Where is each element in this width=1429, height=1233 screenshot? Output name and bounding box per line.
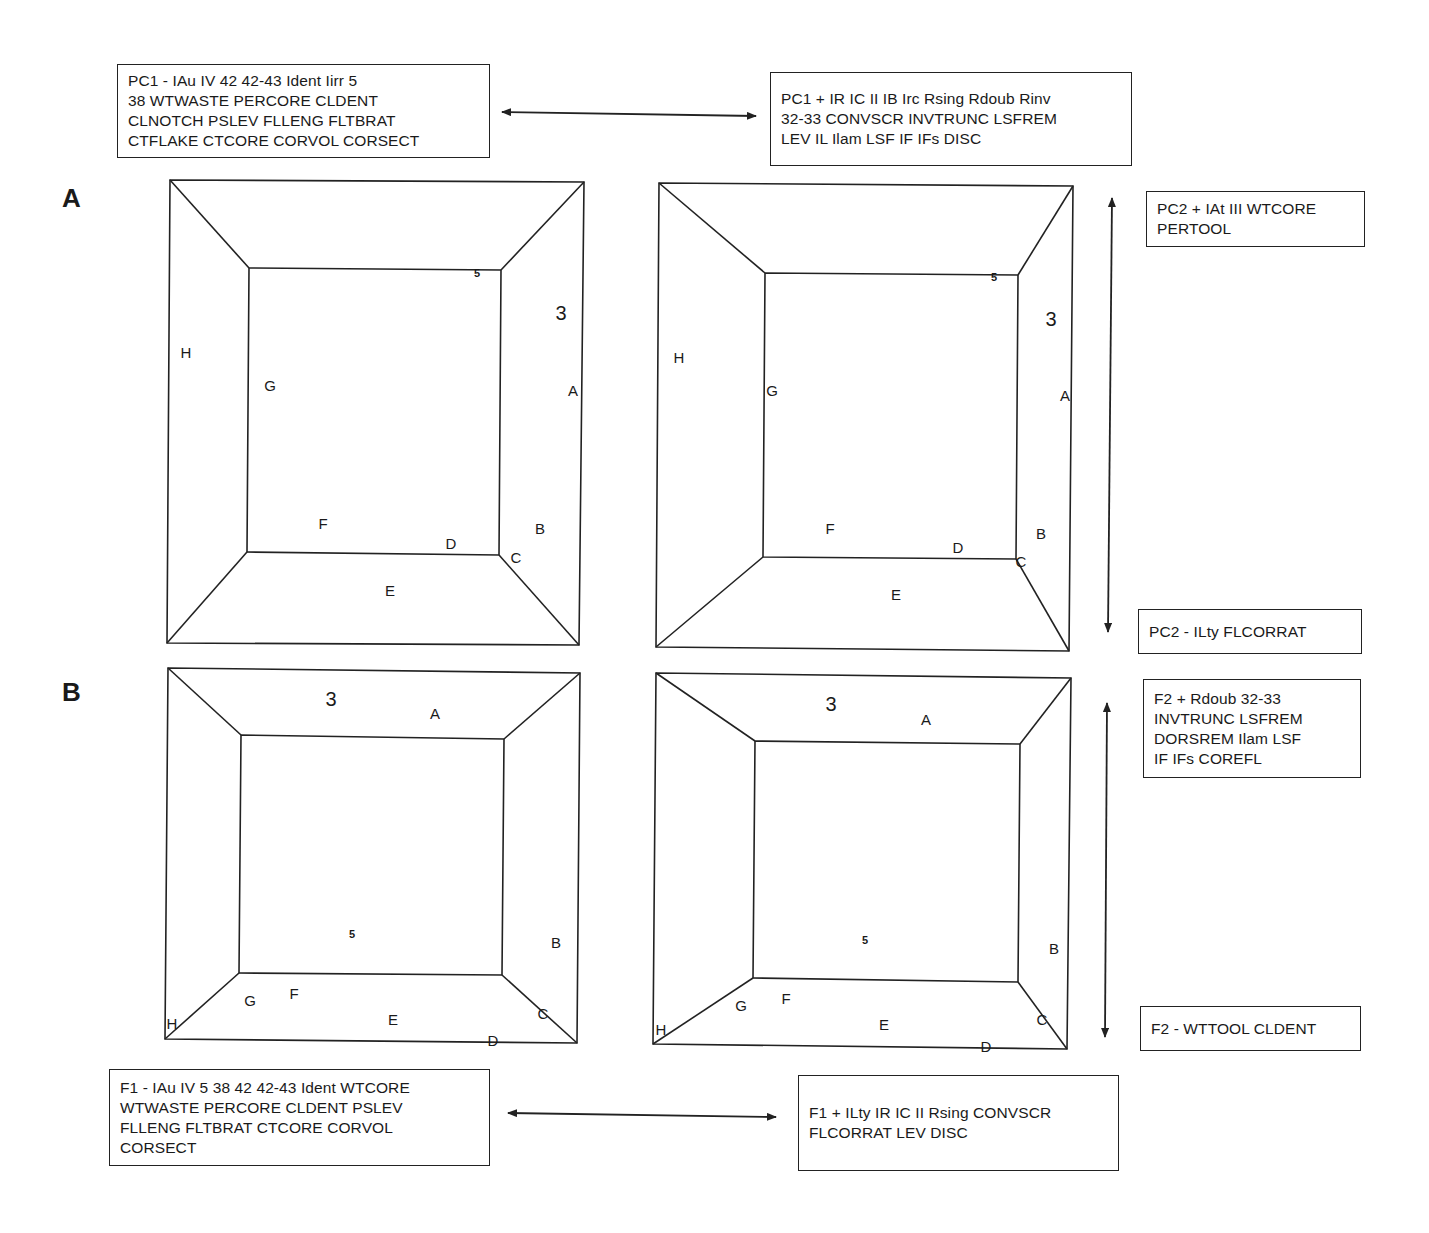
text-box-line: CORSECT <box>120 1138 479 1158</box>
text-box-line: FLLENG FLTBRAT CTCORE CORVOL <box>120 1118 479 1138</box>
text-box-line: FLCORRAT LEV DISC <box>809 1123 1108 1143</box>
frame-b-left <box>165 668 580 1043</box>
frame-label: F <box>825 520 834 537</box>
frame-label: 3 <box>825 693 836 716</box>
text-box-pc2-minus: PC2 - ILty FLCORRAT <box>1138 609 1362 654</box>
inner-edge <box>247 268 501 555</box>
double-arrow-f1-axis <box>508 1113 776 1117</box>
frame-label: B <box>1036 525 1046 542</box>
outer-edge <box>656 183 1073 651</box>
text-box-line: F1 + ILty IR IC II Rsing CONVSCR <box>809 1103 1108 1123</box>
frame-label: D <box>953 539 964 556</box>
text-box-line: LEV IL Ilam LSF IF IFs DISC <box>781 129 1121 149</box>
inner-edge <box>753 741 1020 982</box>
outer-edge <box>165 668 580 1043</box>
frame-label: 3 <box>1045 308 1056 331</box>
frame-label: A <box>568 382 578 399</box>
frame-label: A <box>921 711 931 728</box>
inner-edge <box>763 273 1018 559</box>
frame-label: 3 <box>325 688 336 711</box>
text-box-line: PERTOOL <box>1157 219 1354 239</box>
corner-connector <box>659 183 765 273</box>
corner-connector <box>1018 186 1073 275</box>
frame-label: D <box>981 1038 992 1055</box>
panel-label-b: B <box>62 677 81 708</box>
frame-label: C <box>511 549 522 566</box>
text-box-pc1-plus: PC1 + IR IC II IB Irc Rsing Rdoub Rinv32… <box>770 72 1132 166</box>
frame-label: 5 <box>474 267 480 279</box>
frame-label: E <box>385 582 395 599</box>
frame-label: C <box>1037 1011 1048 1028</box>
text-box-line: 38 WTWASTE PERCORE CLDENT <box>128 91 479 111</box>
text-box-f1-plus: F1 + ILty IR IC II Rsing CONVSCRFLCORRAT… <box>798 1075 1119 1171</box>
frame-label: G <box>766 382 778 399</box>
frame-label: F <box>318 515 327 532</box>
text-box-line: CTFLAKE CTCORE CORVOL CORSECT <box>128 131 479 151</box>
text-box-line: F2 - WTTOOL CLDENT <box>1151 1019 1350 1039</box>
frame-label: H <box>674 349 685 366</box>
frame-label: G <box>735 997 747 1014</box>
frame-label: 5 <box>349 928 355 940</box>
frame-label: E <box>891 586 901 603</box>
frame-label: C <box>538 1005 549 1022</box>
frame-label: H <box>656 1021 667 1038</box>
frame-label: C <box>1016 553 1027 570</box>
text-box-f2-plus: F2 + Rdoub 32-33INVTRUNC LSFREMDORSREM I… <box>1143 679 1361 778</box>
outer-edge <box>653 673 1071 1049</box>
frame-label: 3 <box>555 302 566 325</box>
text-box-pc1-minus: PC1 - IAu IV 42 42-43 Ident Iirr 538 WTW… <box>117 64 490 158</box>
corner-connector <box>1016 559 1069 651</box>
double-arrow-pc1-axis <box>502 112 756 116</box>
frame-a-left <box>167 180 584 645</box>
text-box-line: WTWASTE PERCORE CLDENT PSLEV <box>120 1098 479 1118</box>
corner-connector <box>501 182 584 270</box>
arrows-group <box>502 112 1112 1117</box>
frame-label: H <box>181 344 192 361</box>
double-arrow-f2-axis <box>1105 703 1107 1037</box>
frame-label: A <box>1060 387 1070 404</box>
frame-label: A <box>430 705 440 722</box>
corner-connector <box>1020 678 1071 744</box>
frame-label: D <box>488 1032 499 1049</box>
frame-label: F <box>289 985 298 1002</box>
corner-connector <box>499 555 579 645</box>
frame-label: G <box>264 377 276 394</box>
corner-connector <box>167 552 247 643</box>
inner-edge <box>239 735 504 975</box>
frame-label: E <box>388 1011 398 1028</box>
text-box-line: 32-33 CONVSCR INVTRUNC LSFREM <box>781 109 1121 129</box>
text-box-f2-minus: F2 - WTTOOL CLDENT <box>1140 1006 1361 1051</box>
text-box-line: CLNOTCH PSLEV FLLENG FLTBRAT <box>128 111 479 131</box>
frame-label: B <box>551 934 561 951</box>
text-box-f1-minus: F1 - IAu IV 5 38 42 42-43 Ident WTCOREWT… <box>109 1069 490 1166</box>
frame-a-right <box>656 183 1073 651</box>
text-box-line: IF IFs COREFL <box>1154 749 1350 769</box>
text-box-line: PC1 + IR IC II IB Irc Rsing Rdoub Rinv <box>781 89 1121 109</box>
frames-group <box>165 180 1073 1049</box>
text-box-line: PC1 - IAu IV 42 42-43 Ident Iirr 5 <box>128 71 479 91</box>
corner-connector <box>656 557 763 647</box>
frame-label: F <box>781 990 790 1007</box>
corner-connector <box>170 180 249 268</box>
text-box-pc2-plus: PC2 + IAt III WTCOREPERTOOL <box>1146 191 1365 247</box>
frame-label: G <box>244 992 256 1009</box>
corner-connector <box>168 668 241 735</box>
text-box-line: F1 - IAu IV 5 38 42 42-43 Ident WTCORE <box>120 1078 479 1098</box>
corner-connector <box>504 673 580 739</box>
text-box-line: DORSREM Ilam LSF <box>1154 729 1350 749</box>
text-box-line: INVTRUNC LSFREM <box>1154 709 1350 729</box>
frame-label: 5 <box>991 271 997 283</box>
frame-b-right <box>653 673 1071 1049</box>
frame-label: D <box>446 535 457 552</box>
panel-label-a: A <box>62 183 81 214</box>
frame-label: 5 <box>862 934 868 946</box>
text-box-line: F2 + Rdoub 32-33 <box>1154 689 1350 709</box>
corner-connector <box>656 673 755 741</box>
frame-label: B <box>535 520 545 537</box>
text-box-line: PC2 + IAt III WTCORE <box>1157 199 1354 219</box>
frame-label: B <box>1049 940 1059 957</box>
frame-label: E <box>879 1016 889 1033</box>
text-box-line: PC2 - ILty FLCORRAT <box>1149 622 1351 642</box>
outer-edge <box>167 180 584 645</box>
frame-label: H <box>167 1015 178 1032</box>
